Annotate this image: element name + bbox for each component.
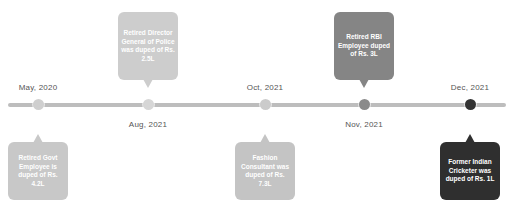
date-label-may-2020: May, 2020 bbox=[19, 83, 58, 92]
callout-pointer bbox=[143, 79, 153, 88]
event-callout-may-2020: Retired Govt Employee is duped of Rs. 4.… bbox=[8, 142, 68, 200]
event-callout-aug-2021: Retired Director General of Police was d… bbox=[118, 12, 178, 80]
date-label-dec-2021: Dec, 2021 bbox=[451, 83, 489, 92]
callout-pointer bbox=[359, 79, 369, 88]
callout-pointer bbox=[260, 134, 270, 143]
event-description: Fashion Consultant was duped of Rs. 7.3L bbox=[238, 154, 292, 188]
event-callout-dec-2021: Former Indian Cricketer was duped of Rs.… bbox=[440, 142, 500, 200]
timeline-dot-dec-2021 bbox=[465, 99, 476, 110]
event-description: Former Indian Cricketer was duped of Rs.… bbox=[443, 158, 497, 184]
event-callout-oct-2021: Fashion Consultant was duped of Rs. 7.3L bbox=[235, 142, 295, 200]
callout-pointer bbox=[465, 134, 475, 143]
timeline-dot-may-2020 bbox=[33, 99, 44, 110]
event-description: Retired Director General of Police was d… bbox=[121, 29, 175, 63]
event-callout-nov-2021: Retired RBI Employee duped of Rs. 3L bbox=[334, 12, 394, 80]
timeline-dot-aug-2021 bbox=[143, 99, 154, 110]
event-description: Retired RBI Employee duped of Rs. 3L bbox=[337, 33, 391, 59]
timeline-dot-nov-2021 bbox=[359, 99, 370, 110]
date-label-aug-2021: Aug, 2021 bbox=[129, 120, 167, 129]
date-label-oct-2021: Oct, 2021 bbox=[247, 83, 284, 92]
event-description: Retired Govt Employee is duped of Rs. 4.… bbox=[11, 154, 65, 188]
timeline-line bbox=[8, 103, 506, 107]
timeline-dot-oct-2021 bbox=[260, 99, 271, 110]
date-label-nov-2021: Nov, 2021 bbox=[345, 120, 383, 129]
callout-pointer bbox=[33, 134, 43, 143]
